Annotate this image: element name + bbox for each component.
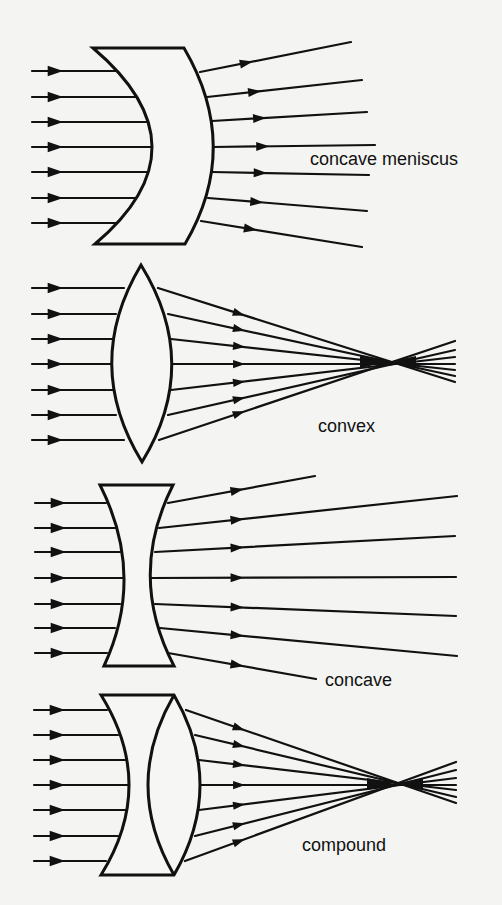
arrowhead-icon xyxy=(230,516,244,525)
outgoing-ray xyxy=(213,145,375,147)
arrowhead-icon xyxy=(233,802,246,810)
arrowhead-icon xyxy=(248,88,262,97)
arrowhead-icon xyxy=(254,168,267,177)
outgoing-ray xyxy=(207,80,362,97)
outgoing-ray xyxy=(158,288,455,382)
outgoing-ray xyxy=(212,112,367,121)
arrowhead-icon xyxy=(233,760,245,768)
arrowhead-icon xyxy=(51,623,66,634)
outgoing-ray xyxy=(151,577,456,578)
outgoing-ray xyxy=(155,604,456,616)
arrowhead-icon xyxy=(50,755,65,766)
arrowhead-icon xyxy=(232,722,245,730)
outgoing-ray xyxy=(155,536,455,552)
arrowhead-icon xyxy=(230,660,244,669)
panel-concave: concave xyxy=(35,476,457,690)
outgoing-ray xyxy=(159,496,457,528)
outgoing-ray xyxy=(159,341,455,440)
arrowhead-icon xyxy=(232,822,245,830)
convex-lens xyxy=(112,265,172,462)
concave-label: concave xyxy=(325,670,392,690)
arrowhead-icon xyxy=(256,142,269,151)
arrowhead-icon xyxy=(48,385,63,396)
outgoing-rays xyxy=(200,42,375,247)
outgoing-ray xyxy=(200,42,351,72)
arrowhead-icon xyxy=(48,218,63,229)
arrowhead-icon xyxy=(230,603,243,612)
arrowhead-icon xyxy=(48,193,63,204)
outgoing-rays xyxy=(158,288,455,440)
panel-concave-meniscus: concave meniscus xyxy=(32,42,458,247)
outgoing-ray xyxy=(208,198,367,211)
arrowhead-icon xyxy=(50,805,65,816)
arrowhead-icon xyxy=(48,167,63,178)
arrowhead-icon xyxy=(233,342,245,350)
arrowhead-icon xyxy=(232,308,245,316)
panel-convex: convex xyxy=(32,265,455,462)
arrowhead-icon xyxy=(50,780,65,791)
arrowhead-icon xyxy=(48,142,63,153)
arrowhead-icon xyxy=(48,92,63,103)
incoming-rays xyxy=(32,283,124,446)
arrowhead-icon xyxy=(233,379,245,387)
arrowhead-icon xyxy=(48,283,63,294)
incoming-rays xyxy=(34,705,129,867)
outgoing-ray xyxy=(186,710,456,803)
arrowhead-icon xyxy=(48,309,63,320)
arrowhead-icon xyxy=(232,839,245,847)
arrowhead-icon xyxy=(48,410,63,421)
convex-label: convex xyxy=(318,416,375,436)
outgoing-rays xyxy=(151,476,457,679)
arrowhead-icon xyxy=(50,705,65,716)
arrowhead-icon xyxy=(51,573,66,584)
arrowhead-icon xyxy=(233,781,245,789)
outgoing-ray xyxy=(201,221,362,247)
arrowhead-icon xyxy=(253,114,266,123)
arrowhead-icon xyxy=(48,359,63,370)
arrowhead-icon xyxy=(50,856,65,867)
arrowhead-icon xyxy=(233,360,245,368)
arrowhead-icon xyxy=(48,435,63,446)
panel-compound: compound xyxy=(34,695,456,875)
concave-lens xyxy=(100,485,174,666)
arrowhead-icon xyxy=(51,498,66,509)
arrowhead-icon xyxy=(243,223,257,232)
arrowhead-icon xyxy=(231,573,244,582)
lens-diagram: concave meniscus convex concave compound xyxy=(0,0,502,905)
arrowhead-icon xyxy=(51,648,66,659)
lens-diagram-canvas: concave meniscus convex concave compound xyxy=(0,0,502,905)
incoming-rays xyxy=(35,498,123,659)
arrowhead-icon xyxy=(48,66,63,77)
arrowhead-icon xyxy=(232,396,245,404)
arrowhead-icon xyxy=(230,543,243,552)
arrowhead-icon xyxy=(51,523,66,534)
arrowhead-icon xyxy=(232,411,245,419)
arrowhead-icon xyxy=(232,740,245,748)
arrowhead-icon xyxy=(50,831,65,842)
outgoing-ray xyxy=(160,628,457,656)
arrowhead-icon xyxy=(51,599,66,610)
concave-meniscus-label: concave meniscus xyxy=(310,149,458,169)
arrowhead-icon xyxy=(51,547,66,558)
arrowhead-icon xyxy=(48,334,63,345)
arrowhead-icon xyxy=(48,117,63,128)
outgoing-ray xyxy=(212,172,369,175)
compound-label: compound xyxy=(302,835,386,855)
arrowhead-icon xyxy=(50,730,65,741)
